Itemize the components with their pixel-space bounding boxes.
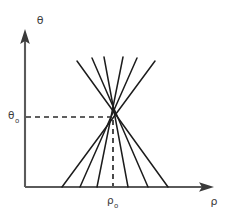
- rho-o-base: ρ: [107, 194, 114, 206]
- hough-parameter-space-figure: θ ρ θ o ρ o: [0, 0, 228, 220]
- theta-o-subscript: o: [15, 117, 19, 125]
- theta-axis-label: θ: [37, 14, 44, 27]
- figure-canvas: θ ρ θ o ρ o: [0, 0, 228, 220]
- rho-axis-label: ρ: [211, 195, 218, 208]
- theta-o-base: θ: [8, 109, 14, 121]
- rho-o-subscript: o: [114, 202, 118, 210]
